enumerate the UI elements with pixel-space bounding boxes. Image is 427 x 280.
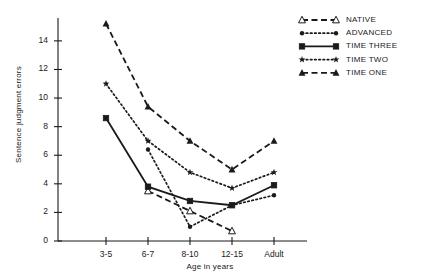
legend-label-time-one: TIME ONE bbox=[346, 68, 387, 77]
x-tick-label: Adult bbox=[251, 249, 297, 259]
y-tick-label: 4 bbox=[30, 178, 48, 188]
data-point-marker bbox=[188, 225, 192, 229]
data-point-marker bbox=[271, 137, 278, 144]
data-point-marker bbox=[146, 147, 150, 151]
data-point-marker bbox=[271, 169, 278, 176]
series-line bbox=[106, 118, 274, 205]
data-point-marker bbox=[145, 103, 152, 110]
y-tick-label: 0 bbox=[30, 235, 48, 245]
y-tick-label: 2 bbox=[30, 206, 48, 216]
x-axis-title: Age in years bbox=[150, 262, 270, 271]
y-axis-title-wrapper: Sentence judgment errors bbox=[0, 0, 22, 240]
y-tick-label: 10 bbox=[30, 92, 48, 102]
data-point-marker bbox=[299, 44, 304, 49]
data-point-marker bbox=[229, 185, 236, 192]
y-tick-label: 12 bbox=[30, 63, 48, 73]
series-advanced bbox=[146, 147, 276, 229]
y-tick-label: 8 bbox=[30, 121, 48, 131]
data-point-marker bbox=[271, 183, 276, 188]
data-point-marker bbox=[187, 169, 194, 176]
series-time-three bbox=[103, 115, 276, 208]
data-point-marker bbox=[300, 31, 304, 35]
x-tick-label: 3-5 bbox=[83, 249, 129, 259]
data-point-marker bbox=[103, 80, 110, 87]
series-line bbox=[106, 24, 274, 170]
series-time-two bbox=[103, 80, 278, 191]
legend-label-time-two: TIME TWO bbox=[346, 55, 388, 64]
x-tick-label: 8-10 bbox=[167, 249, 213, 259]
data-point-marker bbox=[299, 56, 306, 63]
data-point-marker bbox=[229, 166, 236, 173]
legend-group bbox=[299, 16, 340, 75]
data-point-marker bbox=[187, 207, 194, 214]
x-tick-label: 6-7 bbox=[125, 249, 171, 259]
legend-label-advanced: ADVANCED bbox=[346, 28, 392, 37]
data-point-marker bbox=[333, 56, 340, 63]
data-point-marker bbox=[333, 44, 338, 49]
data-point-marker bbox=[272, 193, 276, 197]
series-line bbox=[148, 150, 274, 227]
data-point-marker bbox=[103, 20, 110, 27]
chart-figure: Sentence judgment errors Age in years 02… bbox=[0, 0, 427, 280]
y-axis-title: Sentence judgment errors bbox=[14, 35, 23, 195]
y-tick-label: 14 bbox=[30, 35, 48, 45]
data-point-marker bbox=[229, 203, 234, 208]
data-point-marker bbox=[187, 198, 192, 203]
x-tick-label: 12-15 bbox=[209, 249, 255, 259]
data-point-marker bbox=[103, 115, 108, 120]
y-tick-label: 6 bbox=[30, 149, 48, 159]
data-point-marker bbox=[145, 184, 150, 189]
data-point-marker bbox=[334, 31, 338, 35]
legend-label-native: NATIVE bbox=[346, 15, 376, 24]
legend-label-time-three: TIME THREE bbox=[346, 41, 397, 50]
series-time-one bbox=[103, 20, 278, 172]
